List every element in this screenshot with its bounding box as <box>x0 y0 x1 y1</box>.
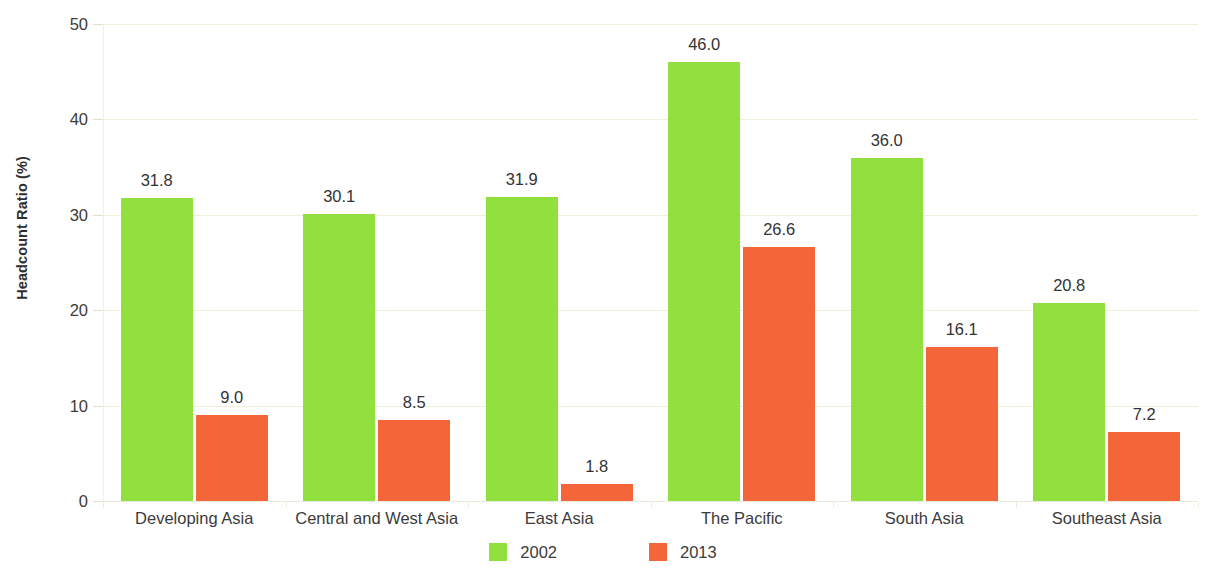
gridline-30 <box>103 215 1198 216</box>
bar-2002-southeast-asia[interactable] <box>1033 303 1105 501</box>
bar-value-label: 1.8 <box>561 458 633 475</box>
bar-2002-developing-asia[interactable] <box>121 198 193 501</box>
bar-value-label: 36.0 <box>851 132 923 149</box>
bar-value-label: 9.0 <box>196 389 268 406</box>
x-axis-label-central-and-west-asia: Central and West Asia <box>286 510 469 527</box>
legend-item-2002[interactable]: 2002 <box>489 543 557 561</box>
bar-2013-southeast-asia[interactable] <box>1108 432 1180 501</box>
x-tick-mark <box>1016 502 1017 508</box>
x-tick-mark <box>103 502 104 508</box>
y-tick-label-20: 20 <box>18 302 88 319</box>
bar-2013-developing-asia[interactable] <box>196 415 268 501</box>
legend-swatch-icon <box>649 543 667 561</box>
bar-value-label: 46.0 <box>668 36 740 53</box>
legend-item-2013[interactable]: 2013 <box>649 543 717 561</box>
legend-label: 2002 <box>520 544 557 561</box>
y-tick-label-0: 0 <box>18 493 88 510</box>
x-tick-mark <box>1198 502 1199 508</box>
x-tick-mark <box>651 502 652 508</box>
bar-value-label: 30.1 <box>303 188 375 205</box>
bar-chart: Headcount Ratio (%) 01020304050 31.89.03… <box>0 0 1206 575</box>
x-axis-label-south-asia: South Asia <box>833 510 1016 527</box>
bar-value-label: 16.1 <box>926 321 998 338</box>
legend-label: 2013 <box>680 544 717 561</box>
bar-value-label: 8.5 <box>378 394 450 411</box>
x-axis-label-east-asia: East Asia <box>468 510 651 527</box>
bar-2002-east-asia[interactable] <box>486 197 558 501</box>
bar-value-label: 26.6 <box>743 221 815 238</box>
bar-value-label: 31.8 <box>121 172 193 189</box>
y-tick-label-10: 10 <box>18 398 88 415</box>
y-tick-label-40: 40 <box>18 111 88 128</box>
x-axis-label-the-pacific: The Pacific <box>651 510 834 527</box>
bar-2013-the-pacific[interactable] <box>743 247 815 501</box>
gridline-40 <box>103 119 1198 120</box>
bar-value-label: 7.2 <box>1108 406 1180 423</box>
gridline-50 <box>103 24 1198 25</box>
x-tick-mark <box>833 502 834 508</box>
bar-2002-central-and-west-asia[interactable] <box>303 214 375 501</box>
x-tick-mark <box>468 502 469 508</box>
bar-2002-south-asia[interactable] <box>851 158 923 501</box>
y-tick-label-30: 30 <box>18 207 88 224</box>
bar-value-label: 31.9 <box>486 171 558 188</box>
x-axis-label-southeast-asia: Southeast Asia <box>1016 510 1199 527</box>
bar-2013-central-and-west-asia[interactable] <box>378 420 450 501</box>
x-tick-mark <box>286 502 287 508</box>
bar-2013-east-asia[interactable] <box>561 484 633 501</box>
bar-2013-south-asia[interactable] <box>926 347 998 501</box>
x-axis-label-developing-asia: Developing Asia <box>103 510 286 527</box>
bar-value-label: 20.8 <box>1033 277 1105 294</box>
bar-2002-the-pacific[interactable] <box>668 62 740 501</box>
chart-legend: 20022013 <box>0 543 1206 561</box>
legend-swatch-icon <box>489 543 507 561</box>
plot-area <box>103 24 1198 501</box>
y-tick-label-50: 50 <box>18 16 88 33</box>
